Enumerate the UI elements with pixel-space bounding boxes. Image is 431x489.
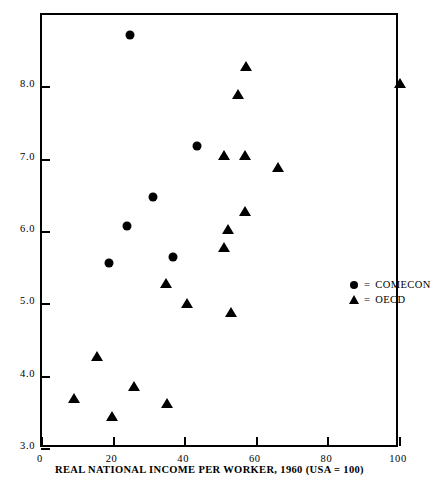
- data-point-oecd: [239, 150, 251, 160]
- data-point-oecd: [91, 351, 103, 361]
- y-axis-tick-label: 5.0: [1, 295, 35, 306]
- x-axis-tick-label: 60: [249, 453, 261, 464]
- data-point-oecd: [232, 89, 244, 99]
- y-axis-tick-label: 3.0: [1, 440, 35, 451]
- data-point-comecon: [192, 141, 201, 150]
- x-axis-tick-label: 0: [37, 453, 43, 464]
- y-axis-tick: [41, 231, 50, 233]
- y-axis-tick-label: 8.0: [1, 78, 35, 89]
- data-point-oecd: [160, 278, 172, 288]
- data-point-comecon: [123, 222, 132, 231]
- data-point-oecd: [68, 393, 80, 403]
- legend-equals-sign: =: [361, 277, 375, 292]
- legend-equals-sign: =: [361, 292, 375, 307]
- data-point-comecon: [105, 259, 114, 268]
- legend-label-oecd: OECD: [375, 292, 405, 307]
- y-axis-tick: [41, 448, 50, 450]
- plot-frame: = COMECON = OECD: [40, 13, 398, 447]
- x-axis-tick-label: 40: [177, 453, 189, 464]
- y-axis-tick-label: 6.0: [1, 223, 35, 234]
- data-point-oecd: [272, 162, 284, 172]
- data-point-oecd: [161, 398, 173, 408]
- y-axis-tick-label: 7.0: [1, 151, 35, 162]
- data-point-oecd: [394, 78, 406, 88]
- x-axis-tick-label: 80: [321, 453, 333, 464]
- legend: = COMECON = OECD: [347, 277, 431, 307]
- data-point-oecd: [218, 242, 230, 252]
- x-axis-tick: [256, 437, 258, 446]
- y-axis-tick-label: 4.0: [1, 368, 35, 379]
- x-axis-title: REAL NATIONAL INCOME PER WORKER, 1960 (U…: [0, 464, 419, 475]
- data-point-oecd: [128, 381, 140, 391]
- data-point-comecon: [126, 30, 135, 39]
- data-point-comecon: [169, 253, 178, 262]
- x-axis-tick: [327, 437, 329, 446]
- plot-area: = COMECON = OECD: [42, 15, 396, 445]
- circle-marker-icon: [347, 281, 361, 289]
- x-axis-tick: [113, 437, 115, 446]
- data-point-oecd: [222, 224, 234, 234]
- y-axis-tick: [41, 86, 50, 88]
- legend-item-comecon: = COMECON: [347, 277, 431, 292]
- data-point-oecd: [218, 150, 230, 160]
- data-point-oecd: [225, 307, 237, 317]
- legend-label-comecon: COMECON: [375, 277, 430, 292]
- legend-item-oecd: = OECD: [347, 292, 431, 307]
- data-point-oecd: [239, 206, 251, 216]
- x-axis-tick: [41, 437, 43, 446]
- data-point-oecd: [106, 411, 118, 421]
- x-axis-tick-label: 20: [106, 453, 118, 464]
- data-point-comecon: [148, 193, 157, 202]
- y-axis-tick: [41, 303, 50, 305]
- x-axis-tick-label: 100: [389, 453, 407, 464]
- x-axis-tick: [184, 437, 186, 446]
- y-axis-tick: [41, 159, 50, 161]
- data-point-oecd: [181, 298, 193, 308]
- data-point-oecd: [240, 61, 252, 71]
- triangle-marker-icon: [347, 295, 361, 304]
- x-axis-tick: [399, 437, 401, 446]
- y-axis-tick: [41, 376, 50, 378]
